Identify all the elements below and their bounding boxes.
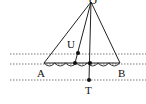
label-U: U (67, 38, 75, 50)
label-B: B (118, 67, 125, 79)
label-T: T (85, 84, 92, 96)
point-T (87, 78, 91, 82)
label-A: A (37, 67, 45, 79)
point-on-AB-right (88, 61, 92, 65)
geometry-diagram: O A B U T (0, 0, 146, 104)
point-U (76, 51, 80, 55)
line-O-T (89, 2, 91, 80)
point-on-AB-left (73, 61, 77, 65)
label-apex: O (89, 0, 97, 6)
